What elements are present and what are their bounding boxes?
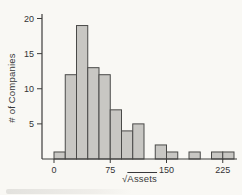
y-axis-label-text: # of Companies xyxy=(6,53,17,122)
histogram-bar xyxy=(155,145,166,159)
sqrt-radicand: Assets xyxy=(127,173,157,184)
scan-shadow-artifact xyxy=(6,189,132,194)
histogram-figure: 5101520075150225 # of Companies √Assets xyxy=(0,0,242,195)
y-axis-label: # of Companies xyxy=(6,53,17,122)
y-tick-label: 15 xyxy=(24,49,34,59)
histogram-bar xyxy=(133,124,144,159)
histogram-bar xyxy=(189,152,200,159)
histogram-bar xyxy=(88,68,99,159)
histogram-bar xyxy=(65,75,76,159)
histogram-bar xyxy=(99,75,110,159)
y-tick-label: 20 xyxy=(24,14,34,24)
histogram-bar xyxy=(212,152,223,159)
y-tick-label: 10 xyxy=(24,84,34,94)
histogram-bar xyxy=(223,152,234,159)
histogram-bar xyxy=(54,152,65,159)
y-tick-label: 5 xyxy=(29,119,34,129)
histogram-bar xyxy=(122,131,133,159)
histogram-bar xyxy=(167,152,178,159)
histogram-bar xyxy=(110,110,121,159)
x-axis-label: √Assets xyxy=(42,173,237,184)
histogram-bar xyxy=(77,26,88,159)
histogram-chart: 5101520075150225 xyxy=(0,0,242,195)
